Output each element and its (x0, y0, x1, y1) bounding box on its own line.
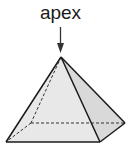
apex-arrowhead (57, 43, 64, 53)
pyramid-diagram (0, 0, 132, 152)
